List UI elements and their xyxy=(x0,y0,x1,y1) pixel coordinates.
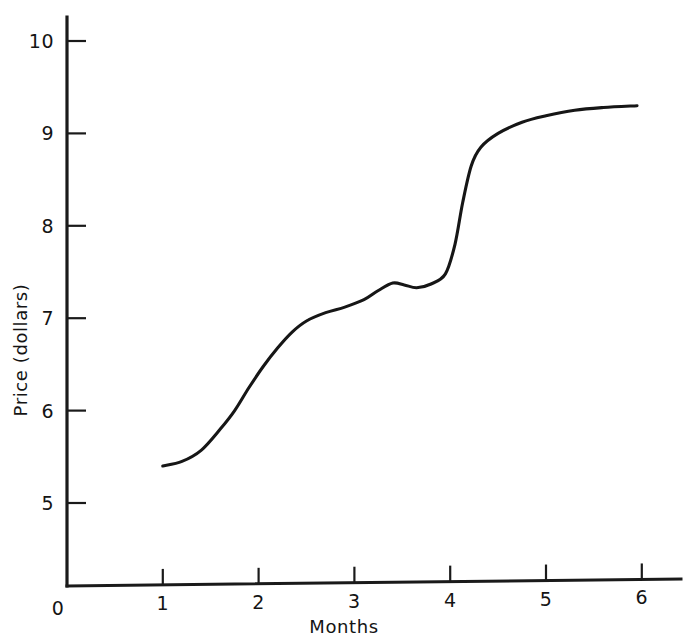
x-axis-line xyxy=(67,579,681,586)
chart-canvas: 5678910 123456 0 Months Price (dollars) xyxy=(0,0,694,644)
x-tick-label-3: 3 xyxy=(348,590,361,612)
price-data-curve xyxy=(163,106,637,466)
x-tick-label-4: 4 xyxy=(444,589,457,611)
origin-tick-label: 0 xyxy=(52,597,65,619)
x-axis-title: Months xyxy=(309,616,378,637)
y-tick-label-5: 5 xyxy=(41,492,54,514)
y-tick-label-10: 10 xyxy=(29,30,54,52)
x-tick-label-6: 6 xyxy=(636,586,649,608)
y-axis-ticks xyxy=(67,41,86,503)
y-axis-title: Price (dollars) xyxy=(10,284,31,417)
y-axis-tick-labels: 5678910 xyxy=(29,30,54,514)
x-tick-label-1: 1 xyxy=(157,592,170,614)
x-axis-tick-labels: 123456 xyxy=(157,586,649,613)
y-tick-label-6: 6 xyxy=(41,400,54,422)
y-tick-label-7: 7 xyxy=(41,307,54,329)
price-vs-months-line-chart: 5678910 123456 0 Months Price (dollars) xyxy=(0,0,694,644)
y-tick-label-8: 8 xyxy=(41,215,54,237)
y-tick-label-9: 9 xyxy=(41,122,54,144)
x-tick-label-2: 2 xyxy=(252,591,265,613)
x-tick-label-5: 5 xyxy=(540,588,553,610)
